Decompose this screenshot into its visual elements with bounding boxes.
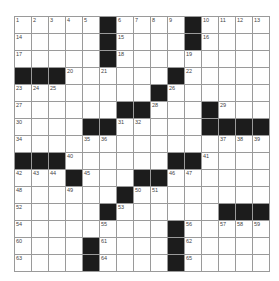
grid-cell[interactable] [117, 221, 134, 238]
grid-cell[interactable] [185, 102, 202, 119]
grid-cell[interactable]: 41 [202, 153, 219, 170]
grid-cell[interactable] [66, 119, 83, 136]
grid-cell[interactable] [253, 102, 270, 119]
grid-cell[interactable] [151, 255, 168, 272]
grid-cell[interactable] [83, 153, 100, 170]
grid-cell[interactable]: 8 [151, 17, 168, 34]
grid-cell[interactable] [49, 204, 66, 221]
grid-cell[interactable]: 63 [15, 255, 32, 272]
grid-cell[interactable]: 61 [100, 238, 117, 255]
grid-cell[interactable] [202, 85, 219, 102]
grid-cell[interactable] [100, 170, 117, 187]
grid-cell[interactable] [253, 238, 270, 255]
grid-cell[interactable] [168, 51, 185, 68]
grid-cell[interactable] [253, 34, 270, 51]
grid-cell[interactable] [100, 187, 117, 204]
grid-cell[interactable] [83, 68, 100, 85]
grid-cell[interactable] [202, 51, 219, 68]
grid-cell[interactable]: 15 [117, 34, 134, 51]
grid-cell[interactable]: 49 [66, 187, 83, 204]
grid-cell[interactable]: 64 [100, 255, 117, 272]
grid-cell[interactable]: 34 [15, 136, 32, 153]
grid-cell[interactable]: 45 [83, 170, 100, 187]
grid-cell[interactable]: 36 [100, 136, 117, 153]
grid-cell[interactable] [202, 238, 219, 255]
grid-cell[interactable]: 31 [117, 119, 134, 136]
grid-cell[interactable] [32, 255, 49, 272]
grid-cell[interactable]: 27 [15, 102, 32, 119]
grid-cell[interactable]: 25 [49, 85, 66, 102]
grid-cell[interactable] [66, 204, 83, 221]
grid-cell[interactable] [32, 221, 49, 238]
grid-cell[interactable] [219, 85, 236, 102]
grid-cell[interactable]: 46 [168, 170, 185, 187]
grid-cell[interactable] [83, 34, 100, 51]
grid-cell[interactable]: 32 [134, 119, 151, 136]
grid-cell[interactable] [151, 153, 168, 170]
grid-cell[interactable] [49, 136, 66, 153]
grid-cell[interactable] [134, 221, 151, 238]
grid-cell[interactable] [236, 51, 253, 68]
grid-cell[interactable] [32, 119, 49, 136]
grid-cell[interactable] [236, 102, 253, 119]
grid-cell[interactable] [202, 187, 219, 204]
grid-cell[interactable] [219, 51, 236, 68]
grid-cell[interactable]: 28 [151, 102, 168, 119]
grid-cell[interactable] [185, 119, 202, 136]
grid-cell[interactable] [219, 187, 236, 204]
grid-cell[interactable] [83, 187, 100, 204]
grid-cell[interactable] [66, 238, 83, 255]
grid-cell[interactable] [185, 187, 202, 204]
grid-cell[interactable]: 38 [236, 136, 253, 153]
grid-cell[interactable] [151, 221, 168, 238]
grid-cell[interactable] [134, 68, 151, 85]
grid-cell[interactable] [151, 204, 168, 221]
grid-cell[interactable]: 7 [134, 17, 151, 34]
grid-cell[interactable] [236, 153, 253, 170]
grid-cell[interactable]: 1 [15, 17, 32, 34]
grid-cell[interactable] [100, 85, 117, 102]
grid-cell[interactable] [117, 255, 134, 272]
grid-cell[interactable] [202, 136, 219, 153]
grid-cell[interactable] [66, 102, 83, 119]
grid-cell[interactable] [66, 136, 83, 153]
grid-cell[interactable] [168, 136, 185, 153]
grid-cell[interactable] [253, 170, 270, 187]
grid-cell[interactable] [236, 255, 253, 272]
grid-cell[interactable] [117, 136, 134, 153]
grid-cell[interactable] [151, 34, 168, 51]
grid-cell[interactable] [219, 34, 236, 51]
grid-cell[interactable]: 10 [202, 17, 219, 34]
grid-cell[interactable] [32, 34, 49, 51]
grid-cell[interactable]: 13 [253, 17, 270, 34]
grid-cell[interactable] [49, 238, 66, 255]
grid-cell[interactable] [83, 204, 100, 221]
grid-cell[interactable] [134, 51, 151, 68]
grid-cell[interactable] [236, 68, 253, 85]
grid-cell[interactable] [66, 85, 83, 102]
grid-cell[interactable] [219, 170, 236, 187]
grid-cell[interactable] [202, 68, 219, 85]
grid-cell[interactable]: 55 [100, 221, 117, 238]
grid-cell[interactable]: 35 [83, 136, 100, 153]
grid-cell[interactable]: 42 [15, 170, 32, 187]
grid-cell[interactable]: 11 [219, 17, 236, 34]
grid-cell[interactable] [151, 119, 168, 136]
grid-cell[interactable] [66, 34, 83, 51]
grid-cell[interactable] [100, 153, 117, 170]
grid-cell[interactable] [49, 51, 66, 68]
grid-cell[interactable] [219, 68, 236, 85]
grid-cell[interactable]: 5 [83, 17, 100, 34]
grid-cell[interactable] [49, 34, 66, 51]
grid-cell[interactable]: 37 [219, 136, 236, 153]
grid-cell[interactable]: 14 [15, 34, 32, 51]
grid-cell[interactable] [134, 204, 151, 221]
grid-cell[interactable] [185, 204, 202, 221]
grid-cell[interactable] [49, 187, 66, 204]
grid-cell[interactable]: 4 [66, 17, 83, 34]
grid-cell[interactable] [168, 204, 185, 221]
grid-cell[interactable] [83, 102, 100, 119]
grid-cell[interactable]: 56 [185, 221, 202, 238]
grid-cell[interactable]: 47 [185, 170, 202, 187]
grid-cell[interactable]: 40 [66, 153, 83, 170]
